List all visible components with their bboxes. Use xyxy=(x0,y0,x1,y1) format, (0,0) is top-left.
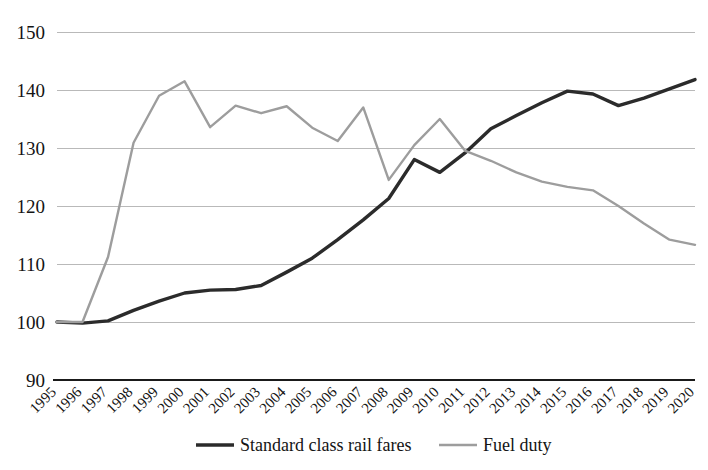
x-axis-labels-group: 1995199619971998199920002001200220032004… xyxy=(27,383,698,416)
line-chart: 90100110120130140150 1995199619971998199… xyxy=(0,0,708,470)
y-tick-label-90: 90 xyxy=(26,370,45,391)
legend-label-rail-fares: Standard class rail fares xyxy=(240,435,411,455)
x-tick-label-2007: 2007 xyxy=(333,383,366,416)
y-tick-label-150: 150 xyxy=(17,22,46,43)
y-tick-label-130: 130 xyxy=(17,138,46,159)
x-tick-label-2014: 2014 xyxy=(511,383,544,416)
series-line-rail-fares xyxy=(57,80,695,324)
x-tick-label-2002: 2002 xyxy=(205,384,238,417)
x-tick-label-2019: 2019 xyxy=(639,384,672,417)
x-tick-label-2017: 2017 xyxy=(588,383,621,416)
x-tick-label-2001: 2001 xyxy=(180,384,213,417)
x-tick-label-2009: 2009 xyxy=(384,384,417,417)
y-tick-label-110: 110 xyxy=(17,254,45,275)
x-tick-label-2018: 2018 xyxy=(614,384,647,417)
y-axis-labels-group: 90100110120130140150 xyxy=(17,22,46,391)
y-tick-label-140: 140 xyxy=(17,80,46,101)
x-tick-label-2012: 2012 xyxy=(460,384,493,417)
gridlines-group xyxy=(57,32,695,322)
x-tick-label-1996: 1996 xyxy=(52,383,85,416)
series-line-fuel-duty xyxy=(57,81,695,322)
x-tick-label-2020: 2020 xyxy=(665,384,698,417)
x-tick-label-2016: 2016 xyxy=(563,383,596,416)
x-tick-label-2015: 2015 xyxy=(537,384,570,417)
x-tick-label-1999: 1999 xyxy=(129,384,162,417)
x-tick-label-2000: 2000 xyxy=(154,384,187,417)
x-tick-label-2005: 2005 xyxy=(282,384,315,417)
legend-label-fuel-duty: Fuel duty xyxy=(483,435,552,455)
series-group xyxy=(57,80,695,324)
x-tick-label-2008: 2008 xyxy=(358,384,391,417)
x-tick-label-2013: 2013 xyxy=(486,384,519,417)
x-tick-label-2011: 2011 xyxy=(435,384,467,416)
x-tick-label-2010: 2010 xyxy=(409,384,442,417)
x-tick-label-2004: 2004 xyxy=(256,383,289,416)
chart-canvas: 90100110120130140150 1995199619971998199… xyxy=(0,0,708,470)
chart-legend: Standard class rail faresFuel duty xyxy=(196,435,552,455)
x-tick-label-2003: 2003 xyxy=(231,384,264,417)
x-tick-label-1998: 1998 xyxy=(103,384,136,417)
y-tick-label-120: 120 xyxy=(17,196,46,217)
y-tick-label-100: 100 xyxy=(17,312,46,333)
x-tick-label-1997: 1997 xyxy=(78,383,111,416)
x-tick-label-2006: 2006 xyxy=(307,383,340,416)
